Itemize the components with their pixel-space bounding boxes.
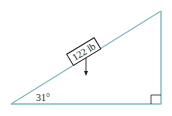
angle-label: 31° bbox=[36, 92, 50, 103]
incline-diagram: 122 lb 31° bbox=[0, 0, 172, 116]
weight-block: 122 lb bbox=[67, 38, 101, 66]
right-angle-marker bbox=[151, 95, 161, 104]
down-arrow-icon bbox=[84, 58, 88, 76]
